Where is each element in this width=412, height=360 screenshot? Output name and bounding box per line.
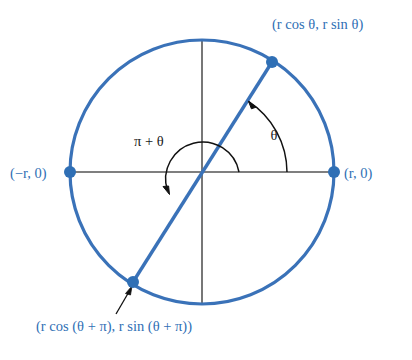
label-angle-pi-plus-theta: π + θ [134,133,164,149]
label-angle-theta: θ [271,127,278,143]
label-point-upper-right: (r cos θ, r sin θ) [272,16,363,33]
point-left-axis [64,166,76,178]
pi-plus-theta-arc-arrowhead [163,186,170,195]
circle-angle-diagram: (r cos θ, r sin θ) (r cos (θ + π), r sin… [0,0,412,360]
label-point-right-axis: (r, 0) [344,165,373,182]
label-point-left-axis: (−r, 0) [10,165,47,182]
point-lower-left [127,276,139,288]
figure-container: (r cos θ, r sin θ) (r cos (θ + π), r sin… [0,0,412,360]
label-point-lower-left: (r cos (θ + π), r sin (θ + π)) [36,318,192,335]
point-right-axis [328,166,340,178]
theta-arc [249,101,288,172]
point-upper-right [266,56,278,68]
